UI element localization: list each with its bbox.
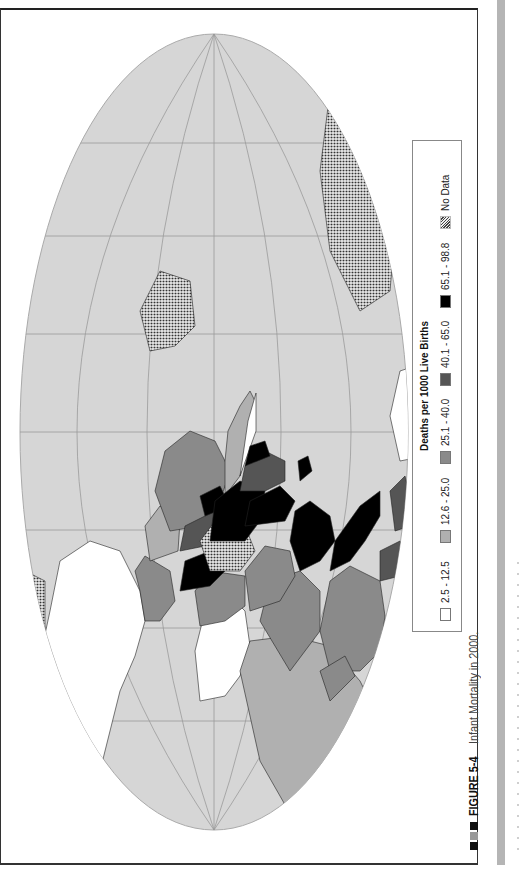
legend-items: 2.5 - 12.5 12.6 - 25.0 25.1 - 40.0 40.1 … [439, 151, 451, 621]
legend-label-class-3: 25.1 - 40.0 [439, 399, 451, 446]
figure-number: FIGURE 5-4 [467, 757, 481, 816]
page-side-bar [497, 0, 505, 865]
legend-label-class-4: 40.1 - 65.0 [439, 321, 451, 368]
region-china [320, 566, 385, 671]
legend-item-class-3: 25.1 - 40.0 [439, 386, 451, 464]
legend-swatch-class-3 [440, 451, 451, 464]
legend-label-class-5: 65.1 - 98.8 [439, 242, 451, 289]
legend-item-class-5: 65.1 - 98.8 [439, 229, 451, 307]
legend-item-class-4: 40.1 - 65.0 [439, 308, 451, 386]
legend-label-no-data: No Data [439, 175, 451, 211]
region-greenland [10, 571, 45, 671]
legend-item-class-1: 2.5 - 12.5 [439, 543, 451, 621]
figure-caption: FIGURE 5-4 Infant Mortality in 2000. [466, 619, 482, 850]
legend-swatch-class-5 [440, 295, 451, 308]
world-map [0, 0, 480, 871]
legend-title: Deaths per 1000 Live Births [418, 166, 430, 607]
faint-source-line [508, 550, 518, 850]
legend-swatch-class-4 [440, 373, 451, 386]
legend-item-class-2: 12.6 - 25.0 [439, 464, 451, 542]
legend-swatch-class-1 [440, 608, 451, 621]
legend-label-class-1: 2.5 - 12.5 [439, 561, 451, 603]
legend-swatch-class-2 [440, 530, 451, 543]
legend-item-no-data: No Data [439, 151, 451, 229]
caption-squares-icon [470, 822, 478, 850]
legend-label-class-2: 12.6 - 25.0 [439, 477, 451, 524]
figure-page: Deaths per 1000 Live Births 2.5 - 12.5 1… [0, 0, 522, 871]
figure-title: Infant Mortality in 2000. [467, 632, 481, 744]
legend-swatch-no-data [440, 216, 451, 229]
map-legend: Deaths per 1000 Live Births 2.5 - 12.5 1… [412, 140, 462, 632]
